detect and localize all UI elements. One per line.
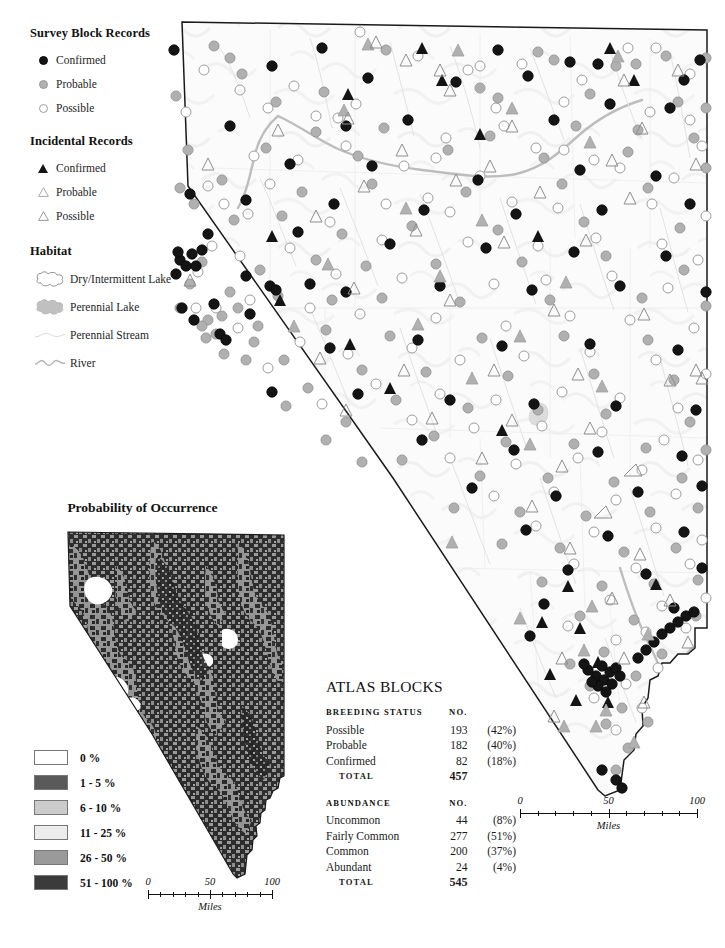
- row-percent: (8%): [470, 813, 516, 829]
- open-circle-icon: [30, 104, 56, 113]
- filled-triangle-icon: [30, 164, 56, 173]
- atlas-map-page: Survey Block Records Confirmed Probable …: [0, 0, 725, 948]
- probability-legend-label: 51 - 100 %: [80, 877, 133, 889]
- row-count: 277: [429, 829, 469, 845]
- gray-triangle-icon: [30, 187, 56, 197]
- scale-tick-label: 50: [603, 795, 614, 806]
- scale-tick-label: 100: [689, 795, 705, 806]
- gray-circle-icon: [30, 80, 56, 89]
- perennial-lake-icon: [30, 297, 70, 317]
- row-percent: (18%): [469, 754, 516, 770]
- column-header-no: NO.: [429, 705, 469, 723]
- probability-legend-label: 6 - 10 %: [80, 802, 121, 814]
- scale-tick-label: 50: [205, 876, 216, 887]
- perennial-stream-icon: [30, 328, 70, 342]
- legend-label: Perennial Lake: [70, 301, 139, 313]
- row-label: Probable: [326, 738, 429, 754]
- row-count: 200: [429, 844, 469, 860]
- probability-swatch: [34, 750, 68, 765]
- total-label: TOTAL: [326, 875, 429, 891]
- scale-tick-label: 0: [517, 795, 522, 806]
- table-row: Possible 193 (42%): [326, 723, 516, 739]
- table-total-row: TOTAL 457: [326, 769, 516, 785]
- probability-legend-item-4[interactable]: 26 - 50 %: [34, 845, 184, 870]
- legend-label: Perennial Stream: [70, 329, 149, 341]
- probability-legend-item-1[interactable]: 1 - 5 %: [34, 770, 184, 795]
- row-label: Fairly Common: [326, 829, 429, 845]
- breeding-status-block: BREEDING STATUS NO. Possible 193 (42%) P…: [326, 705, 516, 785]
- column-header-status: BREEDING STATUS: [326, 705, 429, 723]
- main-map-scale-bar: 0 50 100 Miles: [520, 795, 697, 831]
- table-row: Common 200 (37%): [326, 844, 516, 860]
- row-label: Possible: [326, 723, 429, 739]
- probability-swatch: [34, 775, 68, 790]
- scale-caption: Miles: [148, 901, 272, 912]
- table-row: Uncommon 44 (8%): [326, 813, 516, 829]
- abundance-table: ABUNDANCE NO. Uncommon 44 (8%) Fairly Co…: [326, 796, 516, 891]
- row-count: 24: [429, 860, 469, 876]
- total-count: 457: [429, 769, 469, 785]
- row-percent: (40%): [469, 738, 516, 754]
- row-percent: (37%): [470, 844, 516, 860]
- scale-tick-label: 0: [145, 876, 150, 887]
- stats-title: ATLAS BLOCKS: [326, 678, 516, 696]
- probability-legend: 0 % 1 - 5 % 6 - 10 % 11 - 25 % 26 - 50 %…: [34, 745, 184, 895]
- legend-label: Probable: [56, 186, 97, 198]
- breeding-status-table: BREEDING STATUS NO. Possible 193 (42%) P…: [326, 705, 516, 785]
- scale-caption: Miles: [520, 820, 697, 831]
- column-header-no: NO.: [429, 796, 469, 814]
- probability-swatch: [34, 875, 68, 890]
- scale-numbers: 0 50 100: [148, 876, 272, 890]
- legend-label: River: [70, 357, 96, 369]
- column-header-abundance: ABUNDANCE: [326, 796, 429, 814]
- probability-swatch: [34, 800, 68, 815]
- row-label: Confirmed: [326, 754, 429, 770]
- dry-lake-icon: [30, 269, 70, 289]
- legend-label: Confirmed: [56, 54, 106, 66]
- row-count: 44: [429, 813, 469, 829]
- table-header-row: BREEDING STATUS NO.: [326, 705, 516, 723]
- row-label: Uncommon: [326, 813, 429, 829]
- abundance-block: ABUNDANCE NO. Uncommon 44 (8%) Fairly Co…: [326, 796, 516, 891]
- legend-label: Probable: [56, 78, 97, 90]
- legend-label: Confirmed: [56, 162, 106, 174]
- legend-label: Possible: [56, 102, 94, 114]
- probability-legend-item-0[interactable]: 0 %: [34, 745, 184, 770]
- total-label: TOTAL: [326, 769, 429, 785]
- probability-panel: Probability of Occurrence: [20, 500, 310, 522]
- filled-circle-icon: [30, 56, 56, 65]
- row-label: Abundant: [326, 860, 429, 876]
- row-percent: (51%): [470, 829, 516, 845]
- table-total-row: TOTAL 545: [326, 875, 516, 891]
- probability-legend-label: 11 - 25 %: [80, 827, 126, 839]
- probability-legend-label: 0 %: [80, 752, 100, 764]
- probability-title: Probability of Occurrence: [20, 500, 265, 516]
- atlas-blocks-stats: ATLAS BLOCKS BREEDING STATUS NO. Possibl…: [326, 678, 516, 902]
- scale-tick-label: 100: [264, 876, 280, 887]
- scale-numbers: 0 50 100: [520, 795, 697, 809]
- row-label: Common: [326, 844, 429, 860]
- row-count: 182: [429, 738, 469, 754]
- probability-map-scale-bar: 0 50 100 Miles: [148, 876, 272, 912]
- legend-label: Possible: [56, 210, 94, 222]
- open-triangle-icon: [30, 211, 56, 221]
- scale-bar-graphic: [148, 890, 272, 899]
- table-header-row: ABUNDANCE NO.: [326, 796, 516, 814]
- river-icon: [30, 356, 70, 370]
- row-percent: (42%): [469, 723, 516, 739]
- probability-swatch: [34, 825, 68, 840]
- scale-bar-graphic: [520, 809, 697, 818]
- table-row: Probable 182 (40%): [326, 738, 516, 754]
- total-count: 545: [429, 875, 469, 891]
- probability-legend-item-3[interactable]: 11 - 25 %: [34, 820, 184, 845]
- probability-legend-item-2[interactable]: 6 - 10 %: [34, 795, 184, 820]
- table-row: Confirmed 82 (18%): [326, 754, 516, 770]
- probability-legend-label: 26 - 50 %: [80, 852, 127, 864]
- row-count: 193: [429, 723, 469, 739]
- probability-legend-label: 1 - 5 %: [80, 777, 115, 789]
- probability-swatch: [34, 850, 68, 865]
- row-percent: (4%): [470, 860, 516, 876]
- table-row: Abundant 24 (4%): [326, 860, 516, 876]
- row-count: 82: [429, 754, 469, 770]
- table-row: Fairly Common 277 (51%): [326, 829, 516, 845]
